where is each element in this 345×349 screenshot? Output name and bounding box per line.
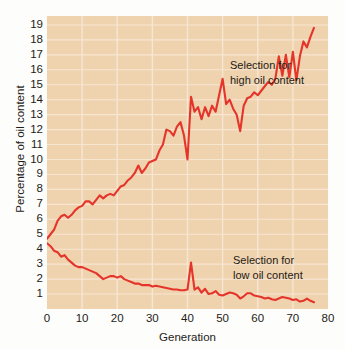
y-tick-label: 2 xyxy=(3,273,43,285)
y-tick-label: 1 xyxy=(3,288,43,300)
x-tick-label: 40 xyxy=(168,313,208,325)
plot-area: Selection for high oil content Selection… xyxy=(47,16,328,309)
y-tick-label: 18 xyxy=(3,34,43,46)
x-axis-ticks: 01020304050607080 xyxy=(47,313,328,329)
y-tick-label: 19 xyxy=(3,19,43,31)
x-tick-label: 70 xyxy=(273,313,313,325)
y-tick-label: 4 xyxy=(3,243,43,255)
oil-content-selection-chart: 12345678910111213141516171819 Selection … xyxy=(0,0,345,349)
y-tick-label: 3 xyxy=(3,258,43,270)
x-axis-label: Generation xyxy=(47,331,328,343)
x-tick-label: 50 xyxy=(203,313,243,325)
annotation-low-oil: Selection for low oil content xyxy=(233,253,303,283)
x-tick-label: 30 xyxy=(132,313,172,325)
x-tick-label: 10 xyxy=(62,313,102,325)
x-tick-label: 0 xyxy=(27,313,67,325)
y-axis-label: Percentage of oil content xyxy=(14,54,26,244)
x-tick-label: 20 xyxy=(97,313,137,325)
x-tick-label: 80 xyxy=(308,313,345,325)
x-tick-label: 60 xyxy=(238,313,278,325)
annotation-high-oil: Selection for high oil content xyxy=(230,58,304,88)
